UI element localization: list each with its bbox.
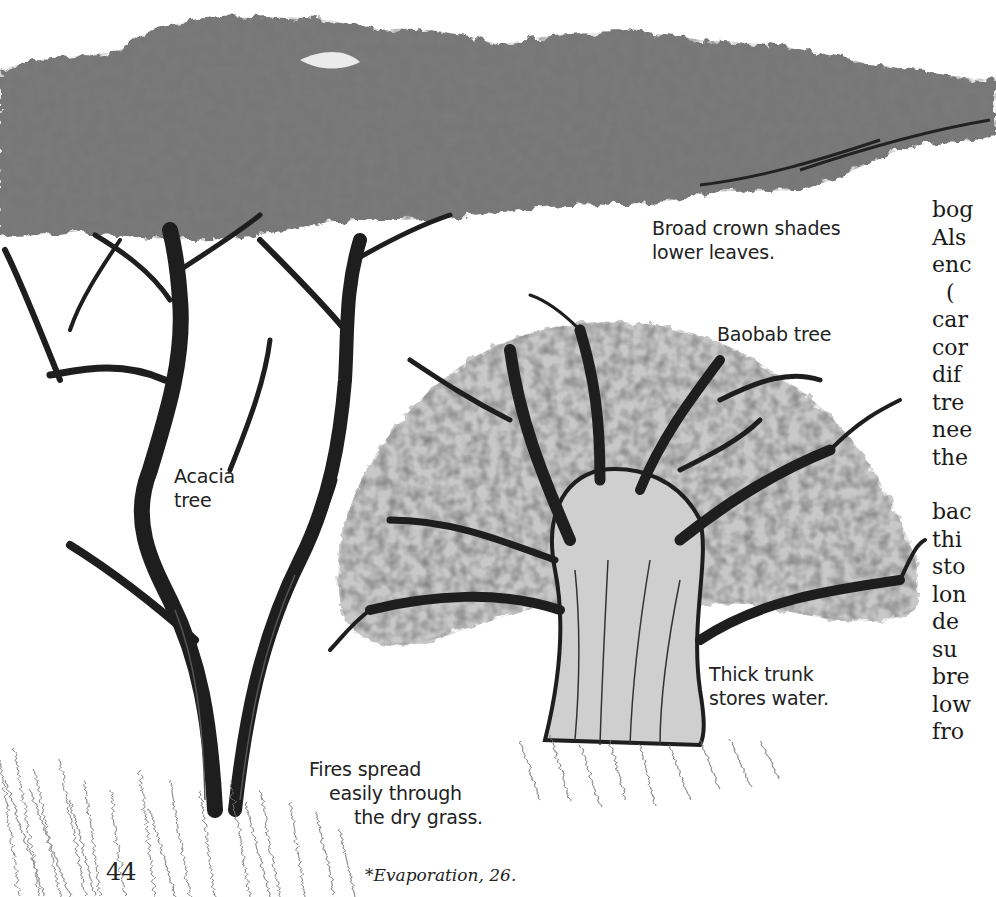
caption-baobab: Baobab tree	[717, 322, 831, 346]
book-page: Broad crown shades lower leaves. Baobab …	[0, 0, 996, 897]
caption-trunk: Thick trunk stores water.	[709, 662, 829, 710]
savanna-illustration	[0, 0, 996, 897]
footnote: *Evaporation, 26.	[365, 865, 516, 885]
body-text-column: bog Als enc ( car cor dif tre nee the ba…	[932, 196, 973, 746]
caption-acacia: Acacia tree	[174, 464, 235, 512]
page-number: 44	[106, 858, 137, 886]
caption-fires: Fires spread easily through the dry gras…	[309, 757, 483, 829]
caption-crown: Broad crown shades lower leaves.	[652, 216, 841, 264]
